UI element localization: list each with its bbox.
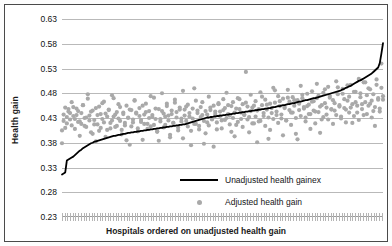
x-axis-tick [183,213,184,221]
x-axis-tick [237,213,238,221]
x-axis-tick [175,213,176,221]
x-axis-tick [325,213,326,221]
x-axis-tick [102,213,103,221]
y-axis-tick-label: 0.48 [40,88,57,98]
x-axis-tick [274,213,275,221]
x-axis-tick [272,213,273,221]
x-axis-tick [186,213,187,221]
x-axis-tick [344,213,345,221]
legend-label-unadjusted: Unadjusted health gainex [225,175,321,185]
x-axis-tick [140,213,141,221]
x-axis-tick [336,213,337,221]
x-axis-tick [172,213,173,221]
x-axis-tick [118,213,119,221]
x-axis-tick [288,213,289,221]
x-axis-tick [207,213,208,221]
unadjusted-health-gain-line [62,43,383,174]
x-axis-tick [110,213,111,221]
legend-dot-swatch [180,200,218,205]
x-axis-tick [100,213,101,221]
x-axis-tick [382,213,383,221]
x-axis-tick [309,213,310,221]
y-axis-title-text: Health gain [10,96,20,144]
x-axis-tick [124,213,125,221]
x-axis-tick [105,213,106,221]
x-axis-tick [374,213,375,221]
x-axis-tick [170,213,171,221]
x-axis-tick [290,213,291,221]
x-axis-tick [113,213,114,221]
x-axis-tick [256,213,257,221]
legend-label-adjusted: Adjusted health gain [225,197,302,207]
legend-line-swatch [180,179,218,182]
x-axis-tick [234,213,235,221]
x-axis-tick [360,213,361,221]
x-axis-tick [218,213,219,221]
x-axis-tick [223,213,224,221]
x-axis-tick [199,213,200,221]
x-axis-tick [151,213,152,221]
y-axis-tick-label: 0.23 [40,212,57,222]
x-axis-tick [363,213,364,221]
x-axis-tick [202,213,203,221]
x-axis-tick [328,213,329,221]
x-axis-tick [78,213,79,221]
x-axis-tick [339,213,340,221]
x-axis-tick [368,213,369,221]
x-axis-tick [178,213,179,221]
x-axis-tick [84,213,85,221]
x-axis-tick [132,213,133,221]
legend-item-unadjusted: Unadjusted health gainex [180,175,321,185]
x-axis-tick [127,213,128,221]
chart-figure: Health gain 0.230.280.330.380.430.480.53… [0,0,392,246]
x-axis-tick [312,213,313,221]
x-axis-tick [92,213,93,221]
x-axis-tick [129,213,130,221]
x-axis-tick [180,213,181,221]
x-axis-tick [108,213,109,221]
x-axis-tick [229,213,230,221]
x-axis-tick [143,213,144,221]
x-axis-tick [145,213,146,221]
x-axis-tick [299,213,300,221]
x-axis-tick [221,213,222,221]
legend-item-adjusted: Adjusted health gain [180,197,302,207]
x-axis-tick [194,213,195,221]
x-axis-tick [204,213,205,221]
x-axis-tick [301,213,302,221]
x-axis-tick [264,213,265,221]
x-axis-tick [213,213,214,221]
x-axis-tick [191,213,192,221]
x-axis-tick [242,213,243,221]
y-axis-tick-label: 0.53 [40,64,57,74]
x-axis-tick [253,213,254,221]
y-axis-title: Health gain [7,65,23,175]
x-axis-tick [159,213,160,221]
x-axis-tick [358,213,359,221]
x-axis-tick [304,213,305,221]
x-axis-tick [277,213,278,221]
x-axis-tick [333,213,334,221]
x-axis-tick [148,213,149,221]
x-axis-tick [89,213,90,221]
x-axis-tick [65,213,66,221]
x-axis-tick [161,213,162,221]
x-axis-tick [317,213,318,221]
y-axis-tick-label: 0.28 [40,187,57,197]
plot-area: 0.230.280.330.380.430.480.530.580.63 [62,19,383,217]
x-axis-tick [94,213,95,221]
x-axis-tick [97,213,98,221]
x-axis-tick [81,213,82,221]
x-axis-tick [293,213,294,221]
x-axis-tick [239,213,240,221]
x-axis-tick [347,213,348,221]
x-axis-tick [331,213,332,221]
x-axis-tick [62,213,63,221]
chart-frame: Health gain 0.230.280.330.380.430.480.53… [4,4,388,242]
x-axis-tick [342,213,343,221]
x-axis-tick [258,213,259,221]
x-axis-tick [379,213,380,221]
x-axis-tick [215,213,216,221]
x-axis-tick [167,213,168,221]
x-axis-tick [352,213,353,221]
